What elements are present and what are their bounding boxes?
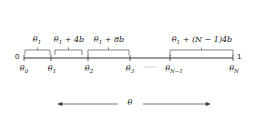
brace-interval-1: [25, 48, 50, 56]
tick-label-theta-1: θ1: [48, 65, 56, 75]
axis-end-label: 1: [237, 53, 241, 61]
interval-label-n: θ1 + (N − 1)4b: [172, 36, 232, 46]
ellipsis: ·······: [143, 64, 156, 70]
brace-interval-2: [55, 48, 82, 56]
tick-label-theta-2: θ2: [85, 65, 93, 75]
diagram-canvas: [0, 0, 256, 126]
tick-label-theta-3: θ3: [126, 65, 134, 75]
tick-label-theta-n: θN: [229, 65, 239, 75]
theta-range-label: θ: [128, 99, 133, 107]
interval-label-2: θ1 + 4b: [54, 36, 84, 46]
tick-label-theta-n-minus-1: θN−1: [165, 65, 183, 75]
brace-interval-n: [170, 48, 233, 57]
theta-range-arrow: [58, 103, 210, 106]
brace-interval-3: [88, 48, 129, 56]
axis-start-label: 0: [15, 53, 19, 61]
interval-label-1: θ1: [33, 36, 41, 46]
tick-label-theta-0: θ0: [20, 65, 28, 75]
interval-label-3: θ1 + 8b: [94, 36, 124, 46]
